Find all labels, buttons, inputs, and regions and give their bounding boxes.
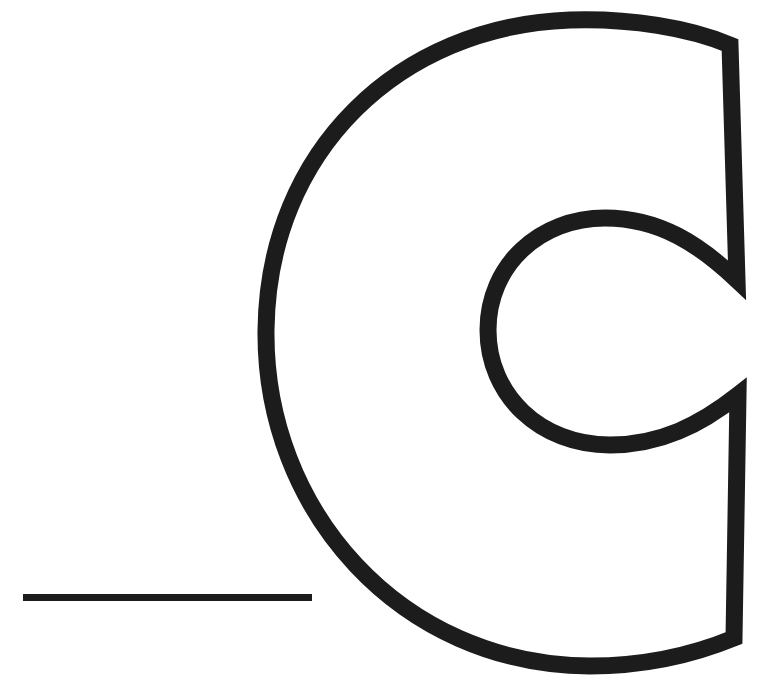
letter-c-outline (266, 20, 738, 666)
outlined-letter-c-graphic (0, 0, 781, 689)
figure-canvas: C (0, 0, 781, 689)
